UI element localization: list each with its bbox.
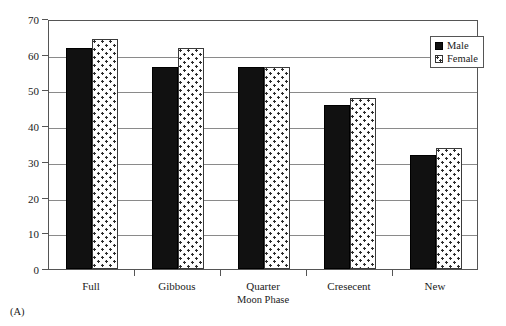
bar-full-female	[92, 39, 118, 269]
y-axis-tick: 10	[0, 227, 48, 241]
y-axis-tick-label: 10	[28, 227, 39, 241]
x-axis-category-label-cresecent: Cresecent	[306, 278, 392, 294]
bar-cresecent-female	[350, 98, 376, 269]
y-axis-tick: 20	[0, 192, 48, 206]
x-axis-category-label-gibbous: Gibbous	[134, 278, 220, 294]
bar-new-male	[410, 155, 436, 269]
legend-item-male: Male	[435, 39, 478, 52]
y-axis-tick-label: 70	[28, 13, 39, 27]
bar-full-male	[66, 48, 92, 269]
chart-legend: MaleFemale	[430, 36, 484, 68]
bar-cresecent-male	[324, 105, 350, 269]
x-axis-category-label-quarter: Quarter	[220, 278, 306, 294]
x-axis-tick-mark	[134, 270, 135, 276]
y-axis-tick-label: 30	[28, 156, 39, 170]
y-axis-tick: 60	[0, 49, 48, 63]
x-axis-category-label-full: Full	[48, 278, 134, 294]
legend-label: Male	[447, 39, 469, 52]
x-axis-tick-mark	[392, 270, 393, 276]
bar-gibbous-male	[152, 67, 178, 269]
legend-swatch-female	[435, 55, 443, 63]
bar-quarter-female	[264, 67, 290, 269]
y-axis-tick-label: 0	[34, 263, 40, 277]
y-axis-tick: 70	[0, 13, 48, 27]
legend-swatch-male	[435, 42, 443, 50]
y-axis-tick: 0	[0, 263, 48, 277]
plot-area	[48, 20, 478, 270]
bar-gibbous-female	[178, 48, 204, 269]
x-axis-tick-mark	[306, 270, 307, 276]
y-axis-tick: 30	[0, 156, 48, 170]
figure-panel-a: % Time Spent Foraging 010203040506070 Fu…	[0, 0, 506, 326]
x-axis-tick-mark	[220, 270, 221, 276]
y-axis-tick: 50	[0, 84, 48, 98]
x-axis-title: Moon Phase	[48, 294, 478, 305]
bar-new-female	[436, 148, 462, 269]
y-axis-tick: 40	[0, 120, 48, 134]
y-axis-tick-label: 20	[28, 192, 39, 206]
x-axis-category-label-new: New	[392, 278, 478, 294]
legend-item-female: Female	[435, 52, 478, 65]
panel-caption: (A)	[10, 306, 25, 317]
legend-label: Female	[447, 52, 478, 65]
y-axis-tick-label: 50	[28, 84, 39, 98]
y-axis-tick-label: 40	[28, 120, 39, 134]
bar-quarter-male	[238, 67, 264, 269]
y-axis-tick-label: 60	[28, 49, 39, 63]
